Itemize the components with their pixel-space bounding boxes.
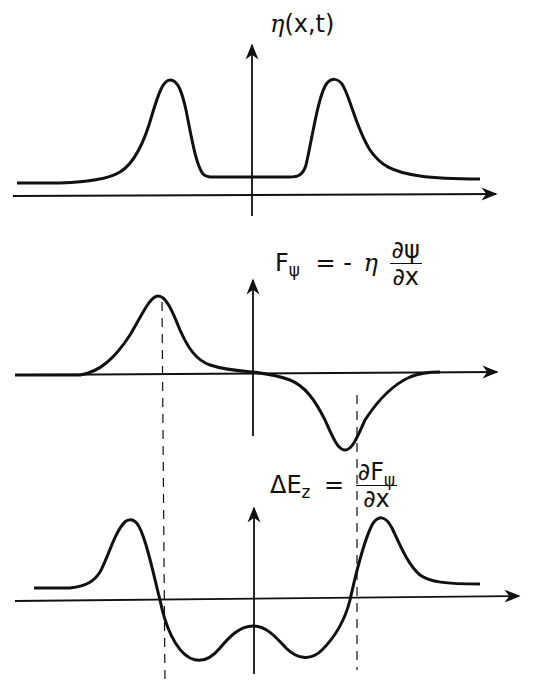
force-lhs: F — [275, 249, 289, 277]
panel-eta — [13, 45, 496, 216]
force-denominator: ∂x — [392, 264, 419, 289]
energy-num-sub: ψ — [384, 470, 395, 490]
energy-lhs: ΔE — [270, 471, 302, 499]
force-lhs-sub: ψ — [289, 260, 300, 280]
x-axis-1 — [13, 194, 496, 196]
eta-curve — [17, 79, 480, 183]
x-axis-3 — [15, 596, 519, 601]
eta-label: η(x,t) — [270, 10, 334, 38]
force-numerator: ∂ψ — [390, 238, 422, 264]
force-eta: η — [364, 249, 378, 277]
energy-eq: = — [324, 471, 344, 499]
energy-lhs-sub: z — [302, 482, 311, 502]
energy-fraction: ∂Fψ ∂x — [356, 460, 397, 511]
energy-num-main: ∂F — [358, 458, 384, 486]
energy-numerator: ∂Fψ — [356, 460, 397, 486]
energy-label: ΔEz = ∂Fψ ∂x — [270, 460, 397, 511]
force-fraction: ∂ψ ∂x — [390, 238, 422, 289]
force-label: Fψ = - η ∂ψ ∂x — [275, 238, 422, 289]
diagram-canvas — [0, 0, 539, 692]
force-eq: = - — [316, 249, 352, 277]
eta-args: (x,t) — [284, 10, 334, 38]
panel-force — [15, 280, 497, 685]
dashed-guide-left — [162, 302, 165, 685]
eta-symbol: η — [270, 10, 284, 38]
panel-energy — [15, 508, 519, 674]
energy-curve — [34, 518, 480, 660]
